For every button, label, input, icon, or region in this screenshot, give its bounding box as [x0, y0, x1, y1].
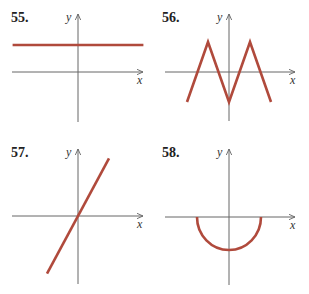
y-axis-label: y	[216, 145, 223, 159]
y-axis-label: y	[65, 10, 72, 24]
panel-56: 56. y x	[162, 10, 296, 121]
y-axis-label: y	[216, 10, 223, 24]
panel-label-55: 55.	[11, 10, 29, 25]
x-axis-label: x	[136, 73, 143, 87]
x-axis-label: x	[136, 217, 143, 231]
panel-57: 57. y x	[11, 145, 143, 284]
panel-58: 58. y x	[162, 145, 296, 285]
y-axis-label: y	[65, 145, 72, 159]
panel-label-58: 58.	[162, 145, 180, 160]
panel-label-56: 56.	[162, 10, 180, 25]
x-axis-label: x	[289, 218, 296, 232]
figure: 55. y x 56. y x 57. y x 58. y x	[0, 0, 309, 294]
x-axis-label: x	[289, 73, 296, 87]
panel-55: 55. y x	[11, 10, 143, 122]
panel-label-57: 57.	[11, 145, 29, 160]
